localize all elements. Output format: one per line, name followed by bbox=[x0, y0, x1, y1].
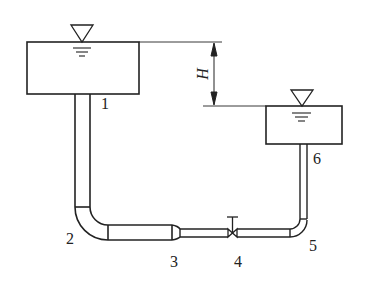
head-symbol-h: H bbox=[195, 68, 211, 80]
point-label-2: 2 bbox=[66, 231, 74, 247]
valve-icon bbox=[227, 217, 238, 237]
large-pipe bbox=[75, 94, 172, 240]
head-dimension-arrow bbox=[211, 43, 217, 105]
small-pipe bbox=[180, 144, 307, 237]
lower-reservoir bbox=[266, 106, 342, 144]
point-label-6: 6 bbox=[313, 151, 321, 167]
point-label-4: 4 bbox=[234, 254, 242, 270]
pipe-system-diagram bbox=[0, 0, 367, 300]
point-label-1: 1 bbox=[101, 96, 109, 112]
point-label-3: 3 bbox=[170, 254, 178, 270]
sudden-contraction bbox=[172, 225, 180, 240]
upper-reservoir bbox=[27, 42, 139, 94]
water-level-icon-upper bbox=[71, 25, 93, 56]
point-label-5: 5 bbox=[309, 238, 317, 254]
